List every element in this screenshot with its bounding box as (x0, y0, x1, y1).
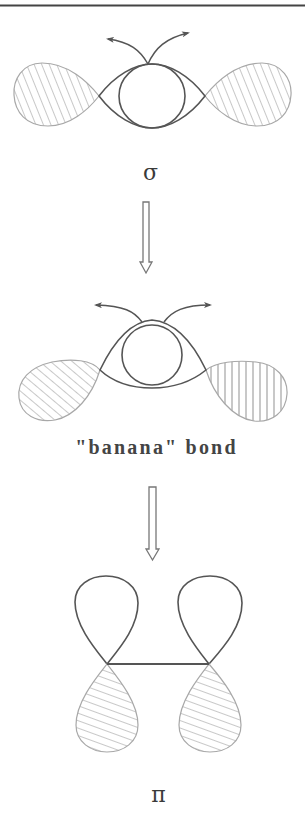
sigma-right-lobe (205, 63, 291, 126)
pi-lower-right-lobe (179, 664, 241, 752)
sigma-lens-outline (99, 64, 205, 128)
transition-arrow-1 (140, 202, 152, 273)
orbital-diagram (0, 0, 305, 826)
sigma-curved-arrow-right (148, 33, 188, 64)
sigma-curved-arrow-left (108, 39, 148, 64)
pi-upper-left-lobe (75, 576, 138, 664)
banana-left-lobe (19, 360, 100, 421)
sigma-left-lobe (14, 63, 99, 126)
sigma-label: σ (0, 160, 303, 185)
banana-diagram (19, 305, 287, 421)
banana-curved-arrow-right (164, 305, 210, 322)
pi-lower-left-lobe (76, 664, 138, 752)
banana-curved-arrow-left (96, 305, 142, 322)
pi-diagram (75, 576, 242, 752)
banana-central-ring (122, 325, 182, 385)
banana-bond-label: "banana" bond (4, 436, 305, 459)
pi-label: π (6, 782, 305, 807)
transition-arrow-2 (146, 487, 159, 560)
pi-upper-right-lobe (178, 576, 242, 664)
banana-right-lobe (206, 361, 287, 421)
banana-arch-outline (100, 320, 206, 388)
sigma-diagram (14, 33, 291, 128)
sigma-central-ring (119, 64, 185, 128)
